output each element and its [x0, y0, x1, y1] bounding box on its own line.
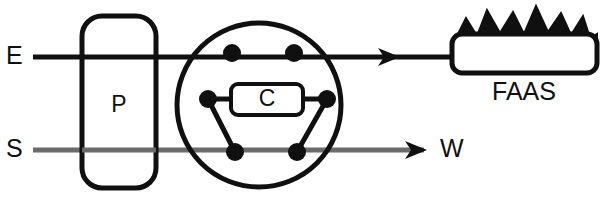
faas-label: FAAS — [492, 77, 556, 105]
flow-injection-diagram: P C — [0, 0, 602, 216]
valve-port-top-right — [285, 44, 303, 62]
valve-port-bottom-left — [226, 143, 244, 161]
sample-loop-label: C — [259, 85, 276, 111]
sample-label: S — [6, 134, 23, 162]
waste-label: W — [440, 134, 464, 162]
valve-port-bottom-right — [288, 143, 306, 161]
valve-port-mid-right — [318, 90, 336, 108]
pump-component: P — [82, 16, 156, 188]
eluent-label: E — [6, 41, 23, 69]
sample-loop-component: C — [231, 84, 303, 115]
injection-valve-component: C — [177, 23, 341, 187]
valve-port-mid-left — [199, 90, 217, 108]
schematic-canvas: P C — [0, 0, 602, 216]
faas-burner-body — [452, 34, 597, 73]
valve-port-top-left — [223, 44, 241, 62]
faas-detector-component: FAAS — [452, 6, 597, 105]
pump-label: P — [111, 91, 126, 117]
